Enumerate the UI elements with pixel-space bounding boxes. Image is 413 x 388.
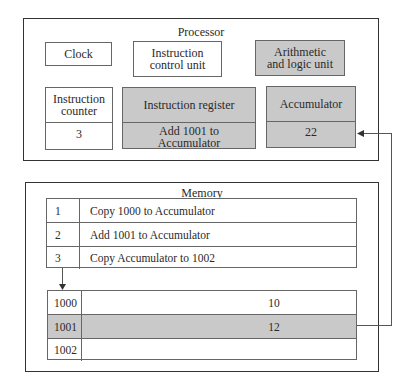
connector-line — [362, 133, 392, 134]
instruction-counter-value: 3 — [46, 123, 112, 142]
alu-box: Arithmetic and logic unit — [255, 40, 345, 76]
accumulator-value: 22 — [267, 122, 355, 140]
connector-line — [391, 133, 392, 326]
program-num: 1 — [47, 199, 80, 222]
arrow-down-icon — [59, 284, 66, 291]
data-value: 12 — [82, 315, 356, 338]
program-instruction: Copy Accumulator to 1002 — [80, 247, 356, 269]
processor-title: Processor — [24, 25, 378, 40]
connector-line — [357, 325, 392, 326]
data-value: 10 — [82, 291, 356, 314]
data-row-highlighted: 100112 — [48, 315, 356, 339]
data-value — [82, 339, 356, 361]
clock-box: Clock — [45, 42, 112, 66]
instruction-control-unit-box: Instruction control unit — [133, 41, 222, 77]
accumulator-label: Accumulator — [267, 87, 355, 122]
program-instruction: Copy 1000 to Accumulator — [80, 199, 356, 222]
program-table: 1Copy 1000 to Accumulator 2Add 1001 to A… — [46, 198, 357, 268]
program-num: 3 — [47, 247, 80, 269]
data-address: 1001 — [48, 315, 82, 338]
instruction-register-label: Instruction register — [123, 88, 255, 123]
arrow-left-icon — [357, 130, 364, 137]
program-row: 2Add 1001 to Accumulator — [47, 223, 356, 247]
data-row: 100010 — [48, 291, 356, 315]
program-instruction: Add 1001 to Accumulator — [80, 223, 356, 246]
data-address: 1000 — [48, 291, 82, 314]
accumulator: Accumulator 22 — [266, 86, 356, 148]
instruction-register: Instruction register Add 1001 to Accumul… — [122, 87, 256, 149]
instruction-register-value: Add 1001 to Accumulator — [123, 123, 255, 149]
data-address: 1002 — [48, 339, 82, 361]
program-num: 2 — [47, 223, 80, 246]
instruction-counter-label: Instruction counter — [46, 88, 112, 123]
program-row: 3Copy Accumulator to 1002 — [47, 247, 356, 269]
data-row: 1002 — [48, 339, 356, 361]
data-table: 100010 100112 1002 — [47, 290, 357, 360]
program-row: 1Copy 1000 to Accumulator — [47, 199, 356, 223]
instruction-counter: Instruction counter 3 — [45, 87, 113, 150]
